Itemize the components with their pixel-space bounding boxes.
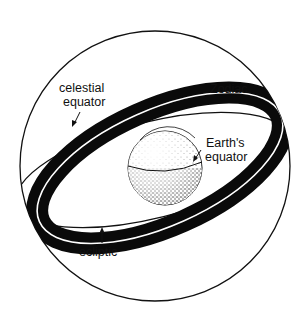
- label-earths: Earth's: [206, 136, 245, 150]
- label-earths-equator: equator: [205, 150, 247, 164]
- label-ecliptic: ecliptic: [79, 245, 117, 259]
- label-zodiac: Zodiac: [210, 82, 248, 96]
- label-equator: equator: [63, 95, 105, 109]
- diagram-svg: [0, 0, 306, 328]
- earth: [128, 131, 202, 205]
- label-celestial: celestial: [59, 81, 104, 95]
- celestial-sphere-diagram: celestial equator Zodiac Earth's equator…: [0, 0, 306, 328]
